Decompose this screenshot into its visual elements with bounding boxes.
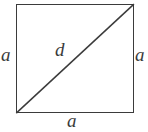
side-label-right: a [135, 45, 145, 64]
diagonal-line [17, 5, 134, 113]
diagonal-label: d [55, 40, 65, 59]
side-label-left: a [1, 45, 11, 64]
geometry-figure: a a a d [0, 0, 148, 132]
side-label-bottom: a [67, 111, 77, 130]
